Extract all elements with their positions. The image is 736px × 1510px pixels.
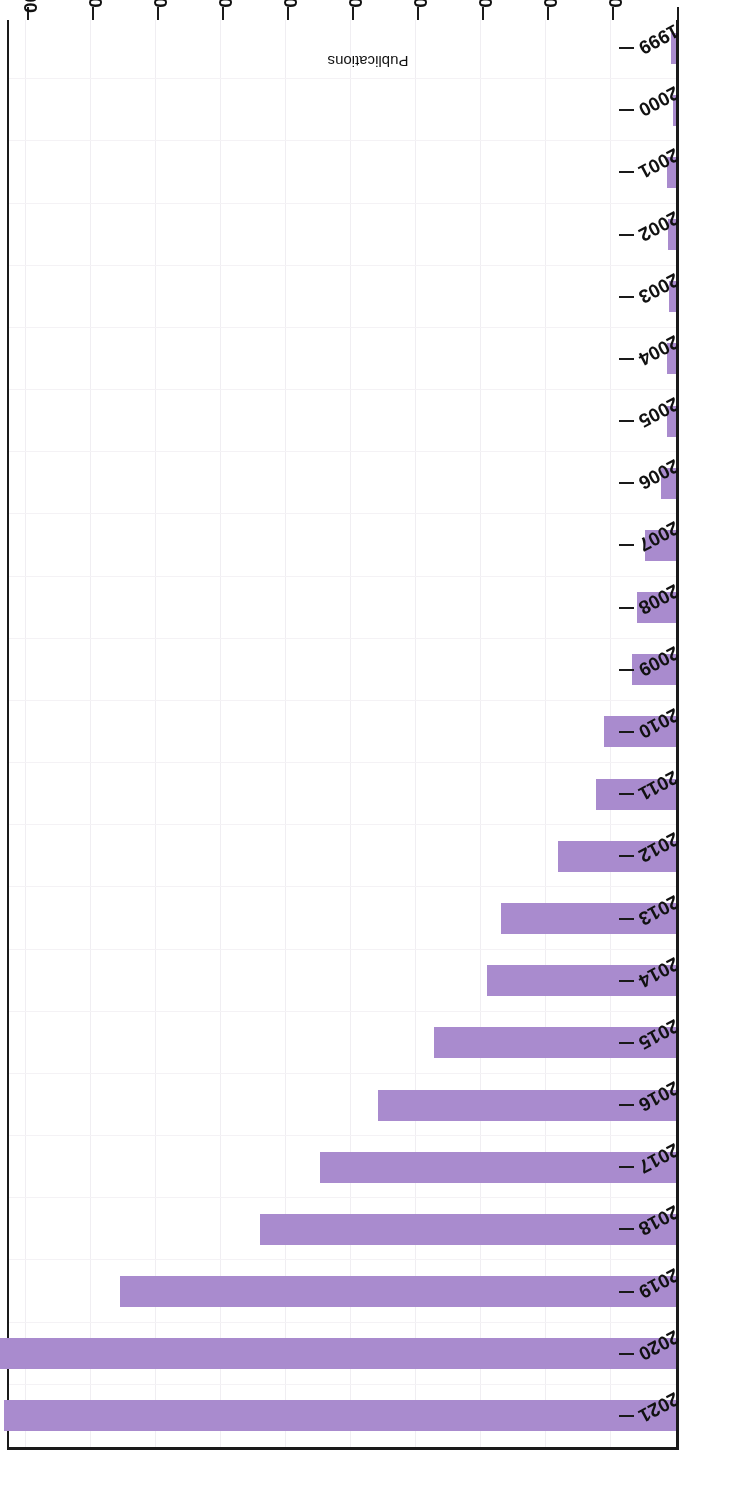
- gridline-horizontal: [9, 451, 676, 452]
- gridline-horizontal: [9, 513, 676, 514]
- plot-area: 2021202020192018201720162015201420132012…: [7, 20, 679, 1450]
- category-tick: [619, 980, 634, 982]
- value-tick-label-0: 0: [669, 0, 691, 22]
- gridline-horizontal: [9, 1259, 676, 1260]
- category-tick: [619, 109, 634, 111]
- bar-row: [4, 157, 676, 188]
- gridline-horizontal: [9, 140, 676, 141]
- category-tick: [619, 1104, 634, 1106]
- value-tick-label-700: 700: [214, 0, 236, 22]
- category-tick: [619, 1042, 634, 1044]
- value-tick-label-1000: 1000: [19, 0, 41, 22]
- category-tick: [619, 607, 634, 609]
- bar-row: [4, 903, 676, 934]
- gridline-horizontal: [9, 1322, 676, 1323]
- bar-row: [4, 530, 676, 561]
- category-tick: [619, 1291, 634, 1293]
- value-tick-label-800: 800: [149, 0, 171, 22]
- value-axis-title: Publications: [0, 53, 736, 70]
- category-tick: [619, 358, 634, 360]
- bar-row: [4, 717, 676, 748]
- gridline-horizontal: [9, 389, 676, 390]
- value-tick-label-500: 500: [344, 0, 366, 22]
- bar-row: [4, 1027, 676, 1058]
- gridline-horizontal: [9, 949, 676, 950]
- gridline-horizontal: [9, 824, 676, 825]
- category-tick: [619, 1415, 634, 1417]
- bar-row: [4, 219, 676, 250]
- category-tick: [619, 731, 634, 733]
- value-tick-label-100: 100: [604, 0, 626, 22]
- category-tick: [619, 918, 634, 920]
- bar-2021: [4, 1400, 676, 1431]
- bar-row: [4, 281, 676, 312]
- gridline-horizontal: [9, 576, 676, 577]
- chart-figure: 2021202020192018201720162015201420132012…: [0, 0, 736, 1510]
- value-tick-label-600: 600: [279, 0, 301, 22]
- bar-row: [4, 343, 676, 374]
- bar-row: [4, 654, 676, 685]
- category-tick: [619, 544, 634, 546]
- gridline-horizontal: [9, 1197, 676, 1198]
- bar-row: [4, 468, 676, 499]
- category-tick: [619, 855, 634, 857]
- gridline-horizontal: [9, 203, 676, 204]
- gridline-horizontal: [9, 762, 676, 763]
- bar-row: [4, 1276, 676, 1307]
- gridline-horizontal: [9, 1011, 676, 1012]
- gridline-horizontal: [9, 886, 676, 887]
- category-tick: [619, 420, 634, 422]
- category-tick: [619, 482, 634, 484]
- bar-row: [4, 406, 676, 437]
- category-tick: [619, 1353, 634, 1355]
- gridline-horizontal: [9, 1073, 676, 1074]
- value-tick-label-200: 200: [539, 0, 561, 22]
- category-tick: [619, 296, 634, 298]
- category-tick: [619, 1228, 634, 1230]
- gridline-horizontal: [9, 327, 676, 328]
- gridline-horizontal: [9, 638, 676, 639]
- bar-row: [4, 592, 676, 623]
- bar-row: [4, 1090, 676, 1121]
- category-tick: [619, 47, 634, 49]
- value-tick-label-900: 900: [84, 0, 106, 22]
- gridline-horizontal: [9, 78, 676, 79]
- bar-2020: [0, 1338, 676, 1369]
- gridline-horizontal: [9, 1135, 676, 1136]
- bar-row: [4, 1214, 676, 1245]
- bar-2019: [120, 1276, 676, 1307]
- bar-2018: [260, 1214, 676, 1245]
- category-tick: [619, 793, 634, 795]
- category-tick: [619, 669, 634, 671]
- gridline-horizontal: [9, 1384, 676, 1385]
- category-tick: [619, 171, 634, 173]
- bar-row: [4, 779, 676, 810]
- bar-row: [4, 965, 676, 996]
- category-tick: [619, 1166, 634, 1168]
- bar-row: [4, 1152, 676, 1183]
- value-tick-label-400: 400: [409, 0, 431, 22]
- gridline-horizontal: [9, 265, 676, 266]
- bar-row: [4, 1400, 676, 1431]
- category-tick: [619, 234, 634, 236]
- bar-row: [4, 1338, 676, 1369]
- bar-row: [4, 841, 676, 872]
- bar-row: [4, 95, 676, 126]
- value-tick-label-300: 300: [474, 0, 496, 22]
- gridline-horizontal: [9, 700, 676, 701]
